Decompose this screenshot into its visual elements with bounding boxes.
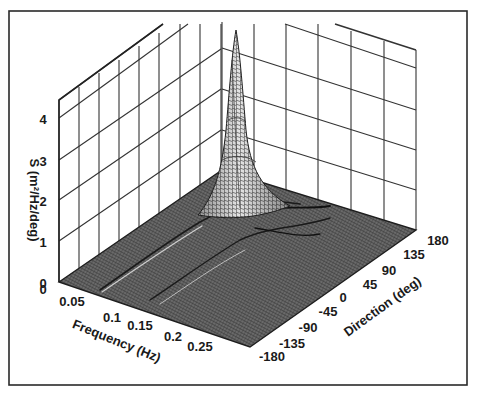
spectrum-figure: 4 3 2 1 0 0 S (m²/Hz/deg) 0.05 0.1 0.15 … xyxy=(0,0,480,396)
z-tick-0-overlap: 0 xyxy=(39,282,46,297)
z-axis: 4 3 2 1 0 0 S (m²/Hz/deg) xyxy=(27,112,47,297)
direction-axis-label: Direction (deg) xyxy=(341,273,424,339)
dir-tick-135: 135 xyxy=(403,247,425,262)
dir-tick-0: 0 xyxy=(339,290,346,305)
dir-tick-90: 90 xyxy=(382,263,396,278)
freq-tick-0.15: 0.15 xyxy=(127,318,152,333)
freq-tick-0.25: 0.25 xyxy=(187,339,212,354)
dir-tick--45: -45 xyxy=(319,304,338,319)
freq-tick-0.1: 0.1 xyxy=(103,310,121,325)
freq-tick-0.05: 0.05 xyxy=(59,294,84,309)
dir-tick--135: -135 xyxy=(279,336,305,351)
dir-tick--90: -90 xyxy=(299,320,318,335)
dir-tick-180: 180 xyxy=(427,233,449,248)
freq-tick-0.2: 0.2 xyxy=(164,329,182,344)
dir-tick--180: -180 xyxy=(259,349,285,364)
z-axis-label: S (m²/Hz/deg) xyxy=(27,158,42,241)
dir-tick-45: 45 xyxy=(363,277,377,292)
z-tick-4: 4 xyxy=(39,112,47,127)
